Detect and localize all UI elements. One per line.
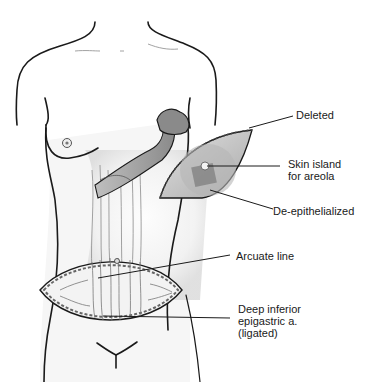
label-de-epithelialized: De-epithelialized: [273, 205, 354, 217]
figure-canvas: Deleted Skin island for areola De-epithe…: [0, 0, 374, 382]
deleted-segment: [157, 109, 189, 134]
label-skin-island: Skin island for areola: [288, 158, 341, 182]
label-deep-inferior-epigastric: Deep inferior epigastric a. (ligated): [238, 303, 301, 339]
label-deleted: Deleted: [296, 109, 334, 121]
label-arcuate-line: Arcuate line: [236, 250, 294, 262]
torso-illustration: [0, 0, 374, 382]
